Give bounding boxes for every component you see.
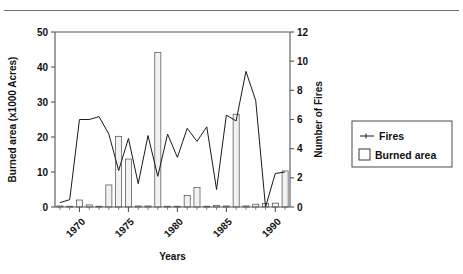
burned-area-bars [57,52,288,207]
y-axis-title: Burned area (x1000 Acres) [7,57,18,183]
right-axis-tick-label: 4 [297,143,303,154]
x-axis-tick-label: 1990 [260,216,284,240]
bar-burned-area [125,159,131,207]
bar-burned-area [233,114,239,207]
bar-burned-area [272,203,278,207]
legend-burned-area-swatch-icon [359,149,370,160]
x-axis-tick-label: 1970 [64,216,88,240]
x-axis-tick-label-text: 1985 [211,216,235,240]
left-axis-tick-label: 20 [37,132,49,143]
x-axis-tick-label-text: 1990 [260,216,284,240]
right-axis-tick-label: 10 [297,56,309,67]
bar-burned-area [184,195,190,207]
bar-burned-area [194,187,200,207]
right-axis-tick-label: 8 [297,85,303,96]
left-axis-tick-label: 0 [42,202,48,213]
left-axis-tick-label: 40 [37,62,49,73]
x-axis-title: Years [159,251,186,262]
fire-statistics-figure: 0102030405002468101219701975198019851990… [0,0,463,274]
x-axis-tick-label: 1980 [162,216,186,240]
legend-label-burned-area: Burned area [375,149,436,161]
bar-burned-area [282,171,288,207]
left-axis-tick-label: 50 [37,27,49,38]
right-axis-tick-label: 12 [297,27,309,38]
left-axis-tick-label: 30 [37,97,49,108]
left-axis-tick-label: 10 [37,167,49,178]
x-axis-tick-label-text: 1975 [113,216,137,240]
right-axis-tick-label: 6 [297,114,303,125]
line-fires [60,71,285,207]
bar-burned-area [106,185,112,207]
legend-label-fires: Fires [379,130,404,142]
right-axis-tick-label: 0 [297,202,303,213]
x-axis-tick-label-text: 1980 [162,216,186,240]
x-axis-tick-label: 1975 [113,216,137,240]
right-axis-tick-label: 2 [297,172,303,183]
fires-line-series [60,71,285,207]
secondary-y-axis-title: Number of Fires [313,81,324,158]
chart-canvas: 0102030405002468101219701975198019851990… [0,0,463,274]
bar-burned-area [76,200,82,207]
chart-legend: Fires Burned area [352,121,452,167]
x-axis-tick-label: 1985 [211,216,235,240]
x-axis-tick-label-text: 1970 [64,216,88,240]
bar-burned-area [155,52,161,207]
